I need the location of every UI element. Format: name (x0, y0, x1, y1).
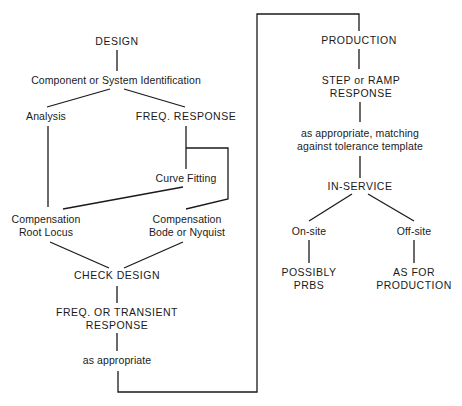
node-identification: Component or System Identification (31, 74, 201, 87)
connector-curvefit-rootlocus (63, 187, 183, 209)
connector-bode-check (124, 242, 183, 268)
node-as-for-production: AS FOR PRODUCTION (376, 266, 452, 291)
connector-inservice-onsite (309, 194, 352, 221)
node-curve-fitting: Curve Fitting (156, 172, 217, 185)
connector-design-to-production (118, 14, 359, 392)
connector-identification-freq (124, 89, 185, 107)
node-in-service: IN-SERVICE (328, 180, 393, 193)
connector-identification-analysis (47, 89, 110, 107)
node-design: DESIGN (95, 35, 138, 48)
flowchart-diagram: DESIGN Component or System Identificatio… (0, 0, 462, 406)
connector-rootlocus-check (50, 242, 109, 268)
node-matching-template: as appropriate, matching against toleran… (297, 127, 423, 152)
node-compensation-bode: Compensation Bode or Nyquist (149, 213, 225, 238)
node-freq-transient-response: FREQ. OR TRANSIENT RESPONSE (56, 306, 178, 331)
node-analysis: Analysis (26, 110, 66, 123)
node-production: PRODUCTION (321, 34, 397, 47)
connector-lines (0, 0, 462, 406)
node-check-design: CHECK DESIGN (74, 269, 160, 282)
node-compensation-root-locus: Compensation Root Locus (12, 213, 81, 238)
node-possibly-prbs: POSSIBLY PRBS (281, 266, 336, 291)
connector-inservice-offsite (368, 194, 414, 221)
node-on-site: On-site (292, 225, 327, 238)
node-step-ramp-response: STEP or RAMP RESPONSE (322, 74, 401, 99)
node-as-appropriate: as appropriate (83, 354, 152, 367)
node-freq-response: FREQ. RESPONSE (136, 110, 236, 123)
node-off-site: Off-site (397, 225, 431, 238)
